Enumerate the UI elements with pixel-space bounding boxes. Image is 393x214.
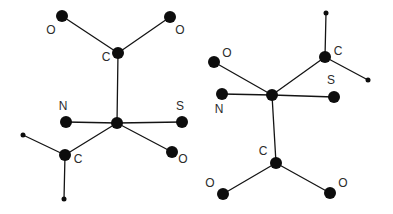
bond-l-c2-l-r2 [64,155,65,199]
atom-substituent-node [21,133,26,138]
atom-label-o: O [222,46,231,60]
atom-center-node [111,117,123,129]
bond-l-x1-l-c2 [65,123,117,155]
bonds-layer [23,13,368,199]
bond-r-x1-r-s1 [272,95,334,97]
structure-left-atoms [21,10,189,202]
atom-label-s: S [327,73,335,87]
atom-label-c: C [334,44,343,58]
structure-right-bonds [214,13,368,194]
labels-layer: OOCNSOCCOSNCOO [46,23,347,190]
atom-o-node [56,10,68,22]
atom-label-o: O [338,176,347,190]
atom-label-c: C [102,50,111,64]
bond-r-x1-r-c2 [272,95,276,163]
atom-label-o: O [46,23,55,37]
atom-s-node [176,116,188,128]
structure-canvas: OOCNSOCCOSNCOO [0,0,393,214]
bond-l-n1-l-x1 [66,122,117,123]
bond-l-c1-l-x1 [117,53,118,123]
bond-r-c1-r-x1 [272,57,325,95]
bond-r-r1-r-c1 [325,13,326,57]
bond-r-n1-r-x1 [222,94,272,95]
atom-substituent-node [366,78,371,83]
atom-c-node [112,47,124,59]
bond-l-o2-l-c1 [118,17,170,53]
atom-s-node [328,91,340,103]
atom-label-n: N [215,102,224,116]
atom-substituent-node [62,197,67,202]
atom-label-o: O [205,176,214,190]
atom-label-o: O [178,152,187,166]
atom-substituent-node [324,11,329,16]
structure-left-bonds [23,16,182,199]
atom-o-node [166,146,178,158]
bond-r-c2-r-o2 [223,163,276,194]
atom-o-node [208,56,220,68]
atom-label-n: N [59,99,68,113]
atom-o-node [217,188,229,200]
atom-n-node [216,88,228,100]
atom-center-node [266,89,278,101]
atom-c-node [270,157,282,169]
atom-label-c: C [259,144,268,158]
bond-l-c2-l-r1 [23,135,65,155]
bond-l-o1-l-c1 [62,16,118,53]
atom-label-s: S [176,99,184,113]
atom-n-node [60,116,72,128]
molecular-structure-diagram: OOCNSOCCOSNCOO [0,0,393,214]
atom-c-node [59,149,71,161]
bond-l-x1-l-o3 [117,123,172,152]
atoms-layer [21,10,371,202]
atom-o-node [324,187,336,199]
structure-right-atoms [208,11,371,201]
atom-label-o: O [175,23,184,37]
atom-o-node [164,11,176,23]
atom-label-c: C [74,152,83,166]
atom-c-node [319,51,331,63]
bond-l-x1-l-s1 [117,122,182,123]
bond-r-c2-r-o3 [276,163,330,193]
